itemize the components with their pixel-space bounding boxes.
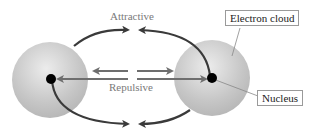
- nucleus-label: Nucleus: [257, 90, 303, 106]
- repulsive-label: Repulsive: [109, 81, 153, 93]
- left-nucleus: [46, 74, 56, 84]
- electron-cloud-label: Electron cloud: [225, 10, 299, 26]
- attractive-arrow-bottom-right: [140, 110, 190, 124]
- attractive-arrow-top-left: [74, 30, 128, 46]
- attractive-label: Attractive: [110, 10, 154, 22]
- right-nucleus: [207, 73, 217, 83]
